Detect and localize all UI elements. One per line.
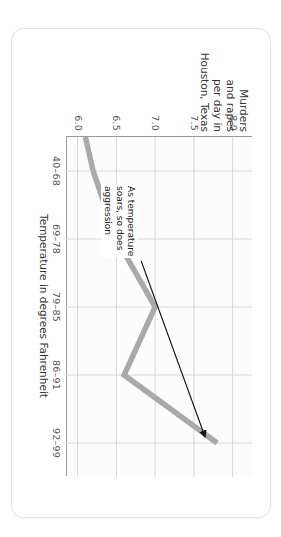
y-tick-label: 7.0 — [150, 115, 161, 131]
figure-wrapper: 6.06.57.07.58.0 40–6869–7879–8586–9192–9… — [12, 29, 270, 517]
y-tick-label: 6.5 — [111, 115, 122, 131]
y-axis-title-line-4: Houston, Texas — [198, 44, 211, 132]
y-axis-title: Murders and rapes per day in Houston, Te… — [198, 44, 250, 132]
chart-page: 6.06.57.07.58.0 40–6869–7879–8586–9192–9… — [0, 0, 281, 537]
y-axis-title-line-2: and rapes — [224, 44, 237, 132]
chart-card: 6.06.57.07.58.0 40–6869–7879–8586–9192–9… — [11, 28, 271, 518]
annotation-line-2: soars, so does — [113, 186, 125, 256]
x-tick-label: 92–99 — [51, 428, 62, 458]
y-tick-label: 6.0 — [72, 115, 83, 131]
x-tick-label: 40–68 — [51, 156, 62, 186]
x-tick-label: 69–78 — [51, 224, 62, 254]
annotation-line-3: aggression — [102, 186, 114, 256]
y-axis-title-line-3: per day in — [211, 44, 224, 132]
x-axis-title: Temperature in degrees Fahrenheit — [38, 136, 50, 476]
chart-annotation: As temperature soars, so does aggression — [101, 184, 138, 258]
y-axis-title-line-1: Murders — [237, 44, 250, 132]
data-line-extension — [85, 137, 93, 171]
annotation-line-1: As temperature — [125, 186, 137, 256]
x-tick-label: 86–91 — [51, 360, 62, 390]
plot-area: 6.06.57.07.58.0 40–6869–7879–8586–9192–9… — [66, 136, 252, 476]
plot-svg — [66, 137, 252, 477]
rotated-figure: 6.06.57.07.58.0 40–6869–7879–8586–9192–9… — [16, 40, 266, 506]
x-tick-label: 79–85 — [51, 292, 62, 322]
gridlines-group — [66, 137, 252, 477]
